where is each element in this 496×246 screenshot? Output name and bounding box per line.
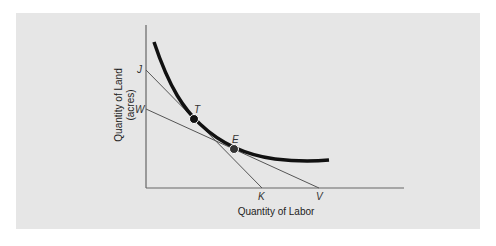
y-axis-title-line2: (acres) [125,89,136,120]
x-axis-title: Quantity of Labor [238,206,315,217]
label-j: J [136,64,143,75]
point-e [230,145,239,154]
point-t [190,115,199,124]
isoquant-curve [154,42,329,161]
label-t: T [194,104,201,115]
y-axis-title-line1: Quantity of Land [113,68,124,141]
label-w: W [135,104,146,115]
isoquant-diagram: J W T E K V Quantity of Labor Quantity o… [0,0,496,246]
label-v: V [316,191,324,202]
label-k: K [258,191,266,202]
label-e: E [232,134,239,145]
